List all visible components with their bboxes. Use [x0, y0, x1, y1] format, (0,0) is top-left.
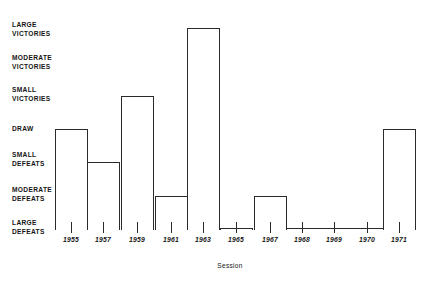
x-tick-label: 1959: [129, 236, 145, 243]
x-tick-label: 1969: [326, 236, 342, 243]
x-tick-label: 1967: [262, 236, 278, 243]
x-tick-label: 1965: [228, 236, 244, 243]
x-axis-tickmarks: [72, 222, 400, 233]
x-tick-label: 1955: [63, 236, 79, 243]
step-line-series: [56, 29, 416, 230]
x-tick-label: 1968: [294, 236, 310, 243]
x-tick-label: 1957: [95, 236, 111, 243]
x-axis-caption: Session: [217, 262, 243, 269]
x-tick-label: 1961: [163, 236, 179, 243]
x-tick-label: 1971: [391, 236, 407, 243]
chart-canvas: LARGE VICTORIESMODERATE VICTORIESSMALL V…: [0, 0, 442, 283]
x-tick-label: 1970: [359, 236, 375, 243]
x-tick-label: 1963: [195, 236, 211, 243]
